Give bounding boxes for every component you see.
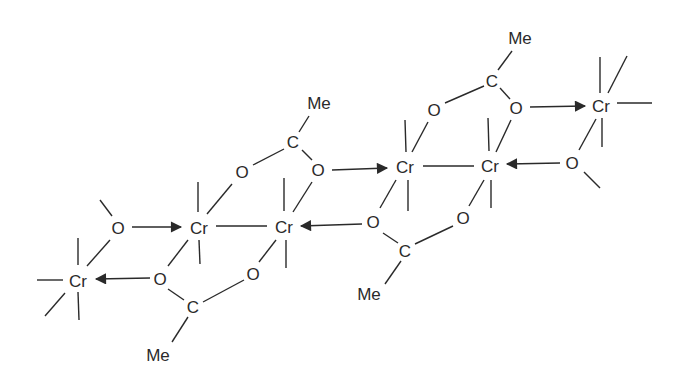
atom-me-ac4: Me bbox=[508, 29, 532, 48]
bonds bbox=[37, 51, 652, 342]
atom-o-ac1-high: O bbox=[246, 265, 259, 284]
atom-cr-c: Cr bbox=[396, 158, 414, 177]
atom-labels: Cr Cr Cr Cr Cr Cr O O C Me O O C Me O O … bbox=[69, 29, 610, 365]
atom-cr-d: Cr bbox=[481, 157, 499, 176]
atom-cr-b: Cr bbox=[275, 218, 293, 237]
atom-c-ac4: C bbox=[486, 72, 498, 91]
atom-c-ac3: C bbox=[399, 242, 411, 261]
atom-o-ac4-right: O bbox=[509, 99, 522, 118]
atom-cr-far-right: Cr bbox=[592, 97, 610, 116]
atom-o-ac2-left: O bbox=[235, 163, 248, 182]
atom-me-ac1: Me bbox=[146, 346, 170, 365]
atom-cr-a: Cr bbox=[190, 219, 208, 238]
atom-me-ac2: Me bbox=[307, 94, 331, 113]
atom-cr-far-left: Cr bbox=[69, 272, 87, 291]
atom-o-ac1-low: O bbox=[153, 270, 166, 289]
atom-me-ac3: Me bbox=[357, 285, 381, 304]
atom-o-ac3-right: O bbox=[456, 209, 469, 228]
chromium-acetate-chain-diagram: Cr Cr Cr Cr Cr Cr O O C Me O O C Me O O … bbox=[0, 0, 685, 375]
atom-o-right-methoxy: O bbox=[565, 154, 578, 173]
atom-c-ac1: C bbox=[187, 298, 199, 317]
atom-o-ac3-left: O bbox=[366, 213, 379, 232]
atom-o-ac2-right: O bbox=[311, 161, 324, 180]
atom-o-left-methoxy: O bbox=[111, 219, 124, 238]
atom-o-ac4-left: O bbox=[427, 101, 440, 120]
atom-c-ac2: C bbox=[287, 133, 299, 152]
